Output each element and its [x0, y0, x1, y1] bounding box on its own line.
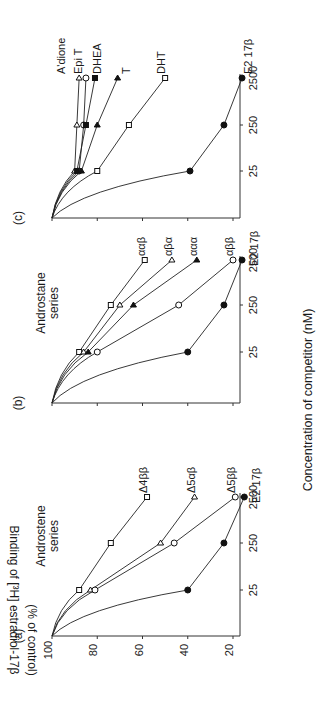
panel-title: Androstene	[34, 505, 48, 567]
data-point-triangle	[76, 75, 82, 80]
panel-b: 252502500(b)Androstaneseriesααβαβαααααββ…	[11, 231, 260, 410]
panel-title: series	[47, 520, 61, 552]
series-line	[52, 78, 95, 218]
data-point-triangle	[192, 494, 198, 499]
data-point-circle	[230, 257, 236, 263]
y-axis-unit-label: (% of control)	[25, 604, 39, 675]
data-point-circle	[185, 587, 191, 593]
x-tick-label: 25	[247, 165, 259, 177]
data-point-square	[83, 123, 88, 128]
data-point-square	[163, 76, 168, 81]
y-axis-label: Binding of [³H] estradiol-17β	[7, 526, 21, 675]
data-point-triangle	[74, 122, 80, 127]
data-point-square	[108, 541, 113, 546]
competition-binding-figure: 10080604020252502500(a)AndrosteneseriesΔ…	[0, 0, 322, 726]
x-tick-label: 250	[247, 296, 259, 314]
data-point-triangle	[115, 75, 121, 80]
series-line	[52, 78, 86, 218]
panel-label: (b)	[11, 396, 25, 411]
data-point-circle	[187, 168, 193, 174]
series-line	[52, 260, 145, 403]
x-axis-label: Concentration of competitor (nM)	[301, 309, 315, 492]
series-label: Δ5αβ	[185, 467, 197, 493]
series-line	[52, 260, 197, 403]
series-label: A'dione	[55, 38, 67, 74]
series-line	[52, 260, 233, 403]
panel-title: Androstane	[34, 272, 48, 334]
data-point-square	[108, 303, 113, 308]
data-point-circle	[221, 540, 227, 546]
panel-c: 252502500(c)A'dioneEpi TDHEATDHTE2 17β	[11, 38, 259, 225]
series-line	[52, 78, 79, 218]
series-label: αβα	[162, 236, 174, 256]
panel-label: (c)	[11, 211, 25, 225]
series-line	[52, 260, 172, 403]
panel-title: series	[47, 287, 61, 319]
series-label: E2 17β	[242, 39, 254, 74]
data-point-square	[126, 123, 131, 128]
x-tick-label: 250	[247, 534, 259, 552]
data-point-circle	[239, 75, 245, 81]
data-point-circle	[239, 257, 245, 263]
panel-a: 10080604020252502500(a)AndrosteneseriesΔ…	[11, 467, 262, 659]
series-label: Epi T	[72, 48, 84, 74]
series-line	[52, 78, 242, 218]
series-label: DHT	[155, 51, 167, 74]
series-line	[52, 497, 147, 636]
data-point-square	[77, 588, 82, 593]
series-label: Δ5ββ	[225, 467, 237, 493]
x-tick-label: 250	[247, 116, 259, 134]
y-tick-label: 40	[178, 644, 190, 656]
data-point-circle	[176, 302, 182, 308]
series-label: E2 17β	[248, 231, 260, 266]
data-point-circle	[171, 540, 177, 546]
data-point-triangle	[194, 257, 200, 262]
data-point-triangle	[130, 302, 136, 307]
y-tick-label: 20	[223, 644, 235, 656]
series-label: DHEA	[91, 43, 103, 74]
x-tick-label: 25	[247, 584, 259, 596]
data-point-circle	[185, 349, 191, 355]
data-point-circle	[83, 75, 89, 81]
data-point-circle	[221, 302, 227, 308]
data-point-square	[92, 76, 97, 81]
series-label: ααβ	[135, 237, 147, 256]
data-point-triangle	[169, 257, 175, 262]
data-point-square	[145, 495, 150, 500]
y-tick-label: 60	[133, 644, 145, 656]
data-point-circle	[94, 349, 100, 355]
data-point-square	[95, 169, 100, 174]
data-point-circle	[232, 494, 238, 500]
series-label: E2 17β	[250, 468, 262, 503]
data-point-circle	[241, 494, 247, 500]
x-tick-label: 25	[247, 346, 259, 358]
data-point-circle	[221, 122, 227, 128]
y-tick-label: 80	[87, 644, 99, 656]
series-label: ααα	[187, 236, 199, 256]
series-line	[52, 497, 195, 636]
data-point-circle	[92, 587, 98, 593]
y-tick-label: 100	[42, 641, 54, 659]
series-label: T	[120, 67, 132, 74]
data-point-triangle	[94, 122, 100, 127]
series-line	[52, 497, 244, 636]
data-point-square	[142, 258, 147, 263]
series-label: αββ	[223, 237, 235, 256]
series-label: Δ4ββ	[137, 467, 149, 493]
series-line	[52, 497, 235, 636]
